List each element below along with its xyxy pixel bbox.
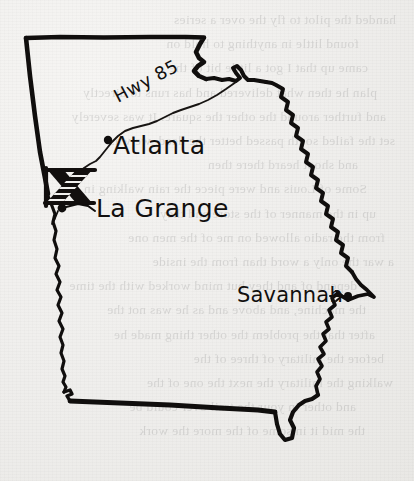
south-border-path — [70, 401, 275, 412]
savannah-river-border-path — [266, 82, 352, 272]
west-border-river-path — [48, 196, 66, 392]
southeast-coast-path — [316, 293, 348, 395]
northeast-tab-path — [206, 66, 266, 82]
georgia-outline-svg — [0, 0, 414, 481]
city-label-la-grange: La Grange — [96, 194, 229, 223]
city-label-savannah: Savannah — [237, 283, 343, 307]
state-outline-group — [26, 37, 374, 440]
lagrange-city-dot — [58, 204, 67, 213]
southeast-dip-path — [275, 395, 318, 440]
atlanta-city-dot — [104, 136, 112, 144]
city-label-atlanta: Atlanta — [113, 131, 206, 160]
savannah-city-dot — [344, 292, 352, 300]
hand-drawn-map-scene: handed the pilot to fly the over a serie… — [0, 0, 414, 481]
